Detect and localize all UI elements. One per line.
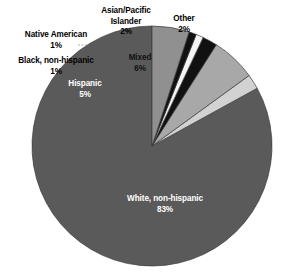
slice-label-white-nonhispanic: White, non-hispanic 83%: [99, 194, 231, 215]
slice-label-black-nonhispanic-pct: 1%: [0, 67, 112, 78]
slice-label-other-name: Other: [173, 14, 194, 23]
slice-label-native-american-pct: 1%: [4, 41, 108, 52]
slice-label-native-american-name: Native American: [25, 30, 87, 39]
slice-label-hispanic-pct: 5%: [54, 90, 116, 101]
slice-label-hispanic: Hispanic 5%: [54, 79, 116, 100]
slice-label-mixed-pct: 6%: [118, 64, 162, 75]
slice-label-black-nonhispanic: Black, non-hispanic 1%: [0, 56, 112, 77]
slice-label-asian-pacific-line1: Asian/Pacific: [101, 6, 151, 15]
slice-label-asian-pacific-line2: Islander: [111, 17, 142, 26]
slice-label-mixed: Mixed 6%: [118, 53, 162, 74]
slice-label-other: Other 2%: [160, 14, 208, 35]
slice-label-other-pct: 2%: [160, 25, 208, 36]
slice-label-black-nonhispanic-name: Black, non-hispanic: [18, 56, 93, 65]
slice-label-hispanic-name: Hispanic: [68, 79, 101, 88]
pie-chart-page: Native American 1% Black, non-hispanic 1…: [0, 0, 285, 277]
slice-label-mixed-name: Mixed: [129, 53, 152, 62]
slice-label-asian-pacific-pct: 2%: [88, 27, 164, 38]
slice-label-asian-pacific-islander: Asian/Pacific Islander 2%: [88, 6, 164, 38]
slice-label-white-nonhispanic-pct: 83%: [99, 205, 231, 216]
slice-label-white-nonhispanic-name: White, non-hispanic: [127, 194, 203, 203]
